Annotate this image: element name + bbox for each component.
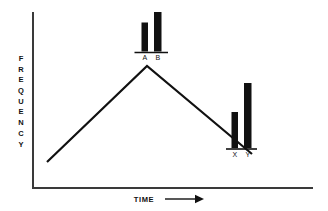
right-arrow-icon [165, 195, 204, 203]
y-axis-title: F R E Q U E N C Y [13, 55, 29, 151]
y-axis-title-char: E [18, 76, 23, 84]
bar-a [142, 23, 149, 52]
bar-label-b: B [155, 54, 160, 61]
frequency-curve [47, 66, 252, 162]
y-axis-title-char: R [18, 66, 23, 74]
bar-y [244, 83, 252, 148]
y-axis-title-char: Y [18, 141, 23, 149]
y-axis-title-char: F [19, 55, 24, 63]
x-axis-title: TIME [134, 195, 154, 204]
bar-group-peak: A B [135, 12, 169, 61]
frequency-curve-group [47, 66, 252, 162]
y-axis-title-char: E [18, 108, 23, 116]
x-axis-title-group: TIME [134, 195, 204, 204]
bar-label-x: X [232, 151, 237, 158]
bar-b [154, 12, 162, 52]
bar-x [232, 112, 239, 148]
figure-container: A B X Y TIME F R E Q U E N C Y [0, 0, 328, 211]
y-axis-title-char: C [18, 130, 23, 138]
y-axis-title-char: N [18, 119, 23, 127]
axes-group [33, 13, 312, 188]
y-axis-title-char: U [18, 98, 23, 106]
y-axis-title-char: Q [18, 87, 24, 95]
bar-label-a: A [142, 54, 147, 61]
chart-canvas: A B X Y TIME [0, 0, 328, 211]
bar-label-y: Y [245, 151, 250, 158]
